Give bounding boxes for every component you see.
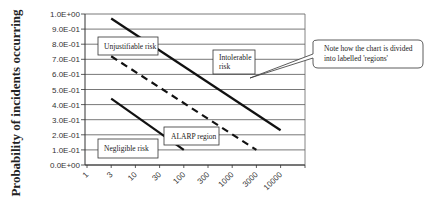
y-tick-label: 9.0E-01 <box>52 25 81 34</box>
y-tick-label: 1.0E+00 <box>50 10 81 19</box>
y-tick-label: 5.0E-01 <box>52 86 81 95</box>
y-tick-label: 8.0E-01 <box>52 40 81 49</box>
x-tick-labels: 1310301003001000300010000 <box>81 170 284 192</box>
svg-text:Negligible risk: Negligible risk <box>104 144 149 153</box>
x-tick-label: 3 <box>105 170 115 180</box>
y-tick-label: 6.0E-01 <box>52 70 81 79</box>
y-tick-label: 7.0E-01 <box>52 55 81 64</box>
risk-chart: 0.0E+001.0E-012.0E-013.0E-014.0E-015.0E-… <box>0 0 445 205</box>
x-tick-label: 30 <box>150 170 163 183</box>
label-unjustifiable-risk: Unjustifiable risk <box>98 37 158 55</box>
y-tick-label: 4.0E-01 <box>52 101 81 110</box>
x-tick-label: 1 <box>81 170 91 180</box>
x-tick-label: 300 <box>196 170 212 186</box>
y-tick-label: 0.0E+00 <box>50 161 81 170</box>
x-tick-label: 10000 <box>262 170 284 192</box>
label-negligible-risk: Negligible risk <box>98 139 158 158</box>
label-intolerable-risk: Intolerable risk <box>213 50 255 74</box>
x-tick-label: 3000 <box>241 170 260 189</box>
svg-text:into labelled 'regions': into labelled 'regions' <box>324 54 389 63</box>
label-alarp-region: ALARP region <box>164 127 219 145</box>
y-tick-label: 1.0E-01 <box>52 146 81 155</box>
svg-text:Unjustifiable risk: Unjustifiable risk <box>104 42 157 51</box>
x-tick-label: 1000 <box>217 170 236 189</box>
svg-text:Intolerable: Intolerable <box>219 53 252 62</box>
y-tick-label: 3.0E-01 <box>52 116 81 125</box>
y-tick-labels: 0.0E+001.0E-012.0E-013.0E-014.0E-015.0E-… <box>50 10 81 170</box>
svg-text:risk: risk <box>219 62 231 71</box>
y-tick-label: 2.0E-01 <box>52 131 81 140</box>
svg-text:ALARP region: ALARP region <box>171 132 217 141</box>
svg-text:Note how the chart is divided: Note how the chart is divided <box>324 44 413 53</box>
x-tick-label: 10 <box>126 170 139 183</box>
x-tick-label: 100 <box>171 170 187 186</box>
